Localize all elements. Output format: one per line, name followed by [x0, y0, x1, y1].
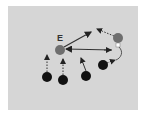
curved-run [116, 47, 122, 60]
marker-square [116, 43, 120, 47]
run-arrow [81, 58, 86, 71]
player-black [81, 71, 91, 81]
player-black [58, 75, 68, 85]
label-e: E [57, 33, 63, 43]
player-upper-right [113, 33, 123, 43]
play-diagram [0, 0, 146, 119]
dotted-run-arrow [97, 29, 114, 36]
pass-arrow [64, 32, 91, 47]
dotted-run-arrow [107, 60, 115, 63]
player-black [98, 60, 108, 70]
player-e [55, 45, 65, 55]
player-black [42, 72, 52, 82]
